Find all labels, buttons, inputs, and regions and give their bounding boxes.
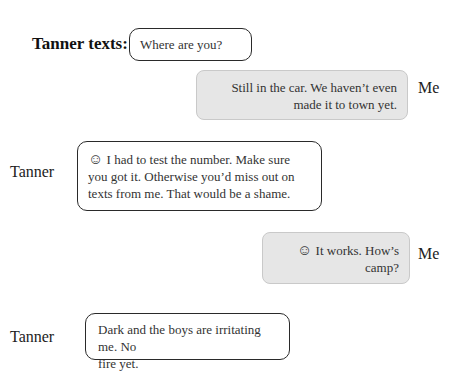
message-text-line: camp?	[273, 259, 399, 276]
message-text-line: texts from me. That would be a shame.	[88, 185, 311, 202]
conversation-heading: Tanner texts:	[32, 34, 128, 54]
speaker-label-me: Me	[418, 79, 439, 97]
smiley-icon: ☺	[88, 151, 103, 167]
message-text-line: you got it. Otherwise you’d miss out on	[88, 168, 311, 185]
message-bubble-outgoing: Still in the car. We haven’t even made i…	[196, 70, 408, 120]
message-bubble-incoming: ☺ I had to test the number. Make sure yo…	[77, 141, 322, 211]
message-text-line: Dark and the boys are irritating me. No	[98, 321, 277, 355]
message-bubble-incoming: Dark and the boys are irritating me. No …	[85, 313, 290, 360]
message-text-line: fire yet.	[98, 355, 277, 372]
speaker-label-tanner: Tanner	[10, 163, 54, 181]
message-text-line: I had to test the number. Make sure	[107, 152, 290, 167]
message-text-line: Still in the car. We haven’t even	[207, 79, 397, 96]
speaker-label-me: Me	[418, 245, 439, 263]
message-text-line: made it to town yet.	[207, 96, 397, 113]
message-text: Where are you?	[140, 37, 222, 52]
smiley-icon: ☺	[297, 242, 312, 258]
message-text-line: It works. How’s	[316, 243, 399, 258]
message-bubble-incoming: Where are you?	[129, 28, 252, 61]
message-bubble-outgoing: ☺ It works. How’s camp?	[262, 232, 410, 284]
speaker-label-tanner: Tanner	[10, 328, 54, 346]
